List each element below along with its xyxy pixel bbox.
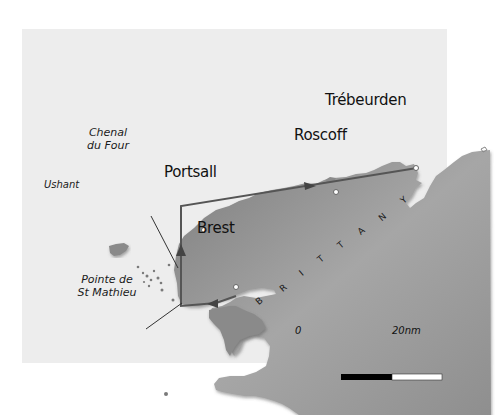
- chenal-leader-line: [151, 216, 178, 268]
- label-ushant: Ushant: [44, 179, 79, 190]
- scale-end-label: 20nm: [392, 325, 421, 336]
- pointe-leader-line: [146, 303, 182, 329]
- chenal-line1: Chenal: [78, 126, 138, 139]
- scale-start-label: 0: [295, 325, 301, 336]
- scale-bar: [341, 374, 442, 380]
- map-frame: Trébeurden Roscoff Portsall Brest Chenal…: [22, 29, 447, 363]
- brittany-landmass: [174, 150, 491, 415]
- place-brest: Brest: [197, 219, 235, 237]
- pointe-line1: Pointe de: [67, 273, 147, 286]
- chenal-line2: du Four: [78, 139, 138, 152]
- place-portsall: Portsall: [164, 163, 217, 181]
- brest-dot: [234, 285, 239, 290]
- pointe-line2: St Mathieu: [67, 286, 147, 299]
- trebeurden-dot: [414, 166, 419, 171]
- ushant-island: [109, 243, 129, 256]
- label-chenal-du-four: Chenal du Four: [78, 126, 138, 152]
- place-trebeurden: Trébeurden: [325, 91, 406, 109]
- roscoff-dot: [334, 190, 339, 195]
- label-pointe-st-mathieu: Pointe de St Mathieu: [67, 273, 147, 299]
- place-roscoff: Roscoff: [294, 126, 347, 144]
- map-svg: [22, 29, 499, 415]
